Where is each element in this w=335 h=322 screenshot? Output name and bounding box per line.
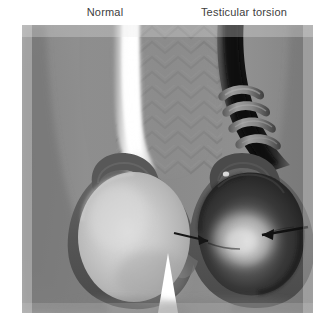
illustration-canvas — [22, 25, 313, 313]
testis-torsed[interactable] — [198, 173, 305, 296]
testis-normal[interactable] — [78, 172, 190, 303]
label-testicular-torsion: Testicular torsion — [185, 5, 303, 19]
label-normal: Normal — [62, 5, 148, 19]
illustration-panel — [22, 25, 313, 313]
figure-root: Normal Testicular torsion — [0, 0, 335, 322]
